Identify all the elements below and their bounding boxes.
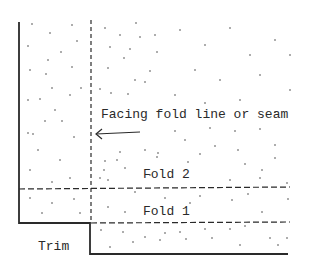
garment-edge-line bbox=[19, 22, 288, 254]
trim-label: Trim bbox=[38, 240, 69, 253]
facing-fold-label: Facing fold line or seam bbox=[101, 108, 288, 121]
fold-1-line bbox=[91, 222, 290, 223]
fold-1-label: Fold 1 bbox=[143, 205, 190, 218]
arrow-left-icon bbox=[96, 129, 140, 139]
fold-2-label: Fold 2 bbox=[143, 168, 190, 181]
hem-fold-diagram: Facing fold line or seam Fold 2 Fold 1 T… bbox=[0, 0, 315, 274]
diagram-lines bbox=[0, 0, 315, 274]
fold-2-line bbox=[19, 187, 290, 189]
